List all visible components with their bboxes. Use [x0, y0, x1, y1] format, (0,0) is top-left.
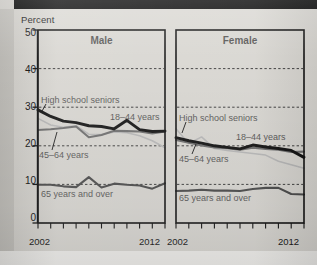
plot-canvas [0, 0, 317, 265]
y-axis [33, 30, 38, 223]
panel-male [38, 30, 165, 229]
panel-female [176, 30, 304, 229]
chart-figure: Percent 50 40 30 20 10 0 Male Female 200… [0, 0, 317, 265]
